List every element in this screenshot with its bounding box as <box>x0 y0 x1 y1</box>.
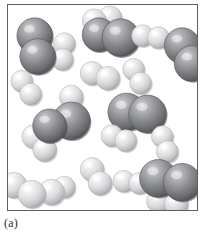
atom-specular-highlight <box>39 116 49 123</box>
vessel-frame <box>7 4 198 211</box>
atom-specular-highlight <box>37 142 44 147</box>
atom-specular-highlight <box>127 63 134 68</box>
atoms-group <box>8 6 197 210</box>
hydrogen-atom <box>18 180 46 208</box>
molecule-layer <box>8 5 197 210</box>
hydrogen-atom <box>20 83 42 105</box>
molecule-h2 <box>11 70 43 106</box>
atom-specular-highlight <box>115 101 126 109</box>
atom-specular-highlight <box>119 134 126 139</box>
molecule-nh3 <box>140 159 197 210</box>
molecule-h2 <box>151 126 179 164</box>
atom-specular-highlight <box>134 77 141 82</box>
atom-specular-highlight <box>171 171 182 179</box>
atom-specular-highlight <box>161 145 168 150</box>
atom-specular-highlight <box>147 167 158 175</box>
molecule-nh3 <box>8 172 76 209</box>
atom-specular-highlight <box>15 75 22 80</box>
atom-specular-highlight <box>133 177 140 182</box>
atom-specular-highlight <box>171 35 182 43</box>
atom-specular-highlight <box>87 14 94 19</box>
atom-specular-highlight <box>85 162 92 167</box>
hydrogen-atom <box>130 72 152 94</box>
atom-specular-highlight <box>24 88 31 93</box>
figure-caption: (a) <box>4 216 18 230</box>
atom-specular-highlight <box>56 53 63 58</box>
atom-specular-highlight <box>27 130 34 135</box>
molecule-n2 <box>164 28 197 83</box>
atom-specular-highlight <box>64 90 71 95</box>
atom-specular-highlight <box>23 186 31 192</box>
atom-specular-highlight <box>152 31 159 36</box>
molecule-nh3 <box>17 18 77 76</box>
atom-specular-highlight <box>27 46 38 54</box>
atom-specular-highlight <box>89 25 99 32</box>
hydrogen-atom <box>156 141 178 163</box>
nitrogen-atom <box>33 109 67 143</box>
molecule-h2 <box>80 158 113 197</box>
atom-specular-highlight <box>85 66 92 71</box>
molecule-h2 <box>80 61 121 91</box>
atom-specular-highlight <box>24 25 35 33</box>
atom-specular-highlight <box>136 103 147 111</box>
atom-specular-highlight <box>58 37 65 42</box>
nitrogen-atom <box>20 39 56 75</box>
hydrogen-atom <box>96 66 120 90</box>
hydrogen-atom <box>115 130 137 152</box>
atom-specular-highlight <box>105 129 112 134</box>
molecular-model-figure: (a) <box>0 0 207 238</box>
molecule-nh3 <box>82 6 141 58</box>
atom-specular-highlight <box>181 53 192 61</box>
hydrogen-atom <box>88 171 112 195</box>
atom-specular-highlight <box>110 26 121 34</box>
atom-specular-highlight <box>156 130 163 135</box>
atom-specular-highlight <box>93 176 100 181</box>
atom-specular-highlight <box>101 71 108 76</box>
atom-specular-highlight <box>117 175 124 180</box>
nitrogen-atom <box>163 163 197 201</box>
molecule-h2 <box>123 58 153 95</box>
atom-specular-highlight <box>136 29 143 34</box>
